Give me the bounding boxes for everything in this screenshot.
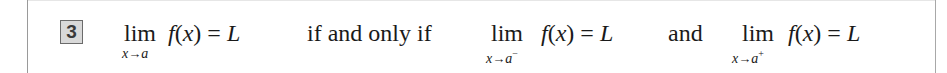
lhs-equals: = bbox=[201, 20, 227, 46]
equation-number-badge: 3 bbox=[60, 20, 83, 44]
left-sub-minus-sign: − bbox=[512, 48, 518, 59]
arrow-icon: → bbox=[128, 46, 141, 61]
left-limit-expression: f(x) = L bbox=[541, 19, 613, 47]
lhs-expression: f(x) = L bbox=[168, 19, 240, 47]
left-equals: = bbox=[574, 20, 600, 46]
right-paren-open: ( bbox=[795, 20, 803, 46]
lhs-func: f bbox=[168, 20, 175, 46]
arrow-icon: → bbox=[492, 51, 505, 66]
connector-if-and-only-if: if and only if bbox=[307, 19, 432, 47]
left-paren-open: ( bbox=[548, 20, 556, 46]
right-limit-expression: f(x) = L bbox=[788, 19, 860, 47]
right-lim-subscript: x→a+ bbox=[732, 46, 764, 67]
left-result: L bbox=[600, 20, 613, 46]
arrow-icon: → bbox=[738, 51, 751, 66]
lhs-result: L bbox=[227, 20, 240, 46]
frame-right-border bbox=[935, 0, 936, 73]
right-lim-operator: lim bbox=[742, 19, 774, 47]
left-lim-subscript: x→a− bbox=[486, 46, 518, 67]
left-func: f bbox=[541, 20, 548, 46]
lhs-lim-subscript: x→a bbox=[122, 46, 148, 62]
left-arg: x bbox=[556, 20, 567, 46]
right-equals: = bbox=[821, 20, 847, 46]
right-sub-plus-sign: + bbox=[758, 48, 764, 59]
lhs-arg: x bbox=[183, 20, 194, 46]
frame-top-border bbox=[27, 0, 936, 1]
frame-left-border bbox=[27, 0, 28, 73]
right-arg: x bbox=[803, 20, 814, 46]
right-func: f bbox=[788, 20, 795, 46]
right-result: L bbox=[847, 20, 860, 46]
left-lim-operator: lim bbox=[491, 19, 523, 47]
connector-and: and bbox=[668, 19, 703, 47]
lhs-lim-operator: lim bbox=[124, 19, 156, 47]
lhs-sub-target: a bbox=[141, 46, 148, 61]
lhs-paren-open: ( bbox=[175, 20, 183, 46]
